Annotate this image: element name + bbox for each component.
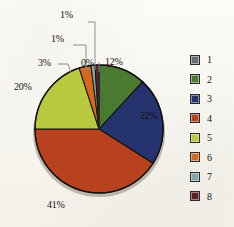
legend-item-2[interactable]: 2 (190, 72, 234, 87)
pie-label-3-percent: 3% (38, 57, 51, 68)
chart-legend: 1 2 3 4 5 6 7 8 (190, 52, 234, 204)
legend-label-4: 4 (207, 113, 212, 124)
legend-swatch-8 (190, 191, 200, 201)
legend-label-7: 7 (207, 171, 212, 182)
legend-label-2: 2 (207, 74, 212, 85)
legend-item-1[interactable]: 1 (190, 52, 234, 67)
legend-label-1: 1 (207, 54, 212, 65)
pie-label-1-percent-b: 1% (60, 9, 73, 20)
pie-label-41-percent: 41% (47, 199, 65, 210)
legend-item-8[interactable]: 8 (190, 189, 234, 204)
pie-label-20-percent: 20% (14, 81, 32, 92)
legend-swatch-6 (190, 152, 200, 162)
legend-label-8: 8 (207, 191, 212, 202)
legend-swatch-7 (190, 172, 200, 182)
legend-item-7[interactable]: 7 (190, 169, 234, 184)
leader-line-slice-6 (58, 64, 71, 73)
legend-label-3: 3 (207, 93, 212, 104)
legend-item-5[interactable]: 5 (190, 130, 234, 145)
pie-label-1-percent-a: 1% (51, 33, 64, 44)
pie-chart-plot: 12% 22% 41% 20% 3% 1% 1% 0% (0, 0, 186, 227)
legend-swatch-2 (190, 74, 200, 84)
legend-label-6: 6 (207, 152, 212, 163)
legend-item-3[interactable]: 3 (190, 91, 234, 106)
pie-label-22-percent: 22% (140, 110, 158, 121)
legend-item-6[interactable]: 6 (190, 150, 234, 165)
legend-swatch-3 (190, 94, 200, 104)
legend-label-5: 5 (207, 132, 212, 143)
legend-swatch-5 (190, 133, 200, 143)
pie-label-0-percent: 0% (81, 57, 94, 68)
legend-swatch-1 (190, 55, 200, 65)
pie-label-12-percent: 12% (105, 56, 123, 67)
legend-swatch-4 (190, 113, 200, 123)
legend-item-4[interactable]: 4 (190, 111, 234, 126)
pie-chart-svg (0, 0, 186, 227)
